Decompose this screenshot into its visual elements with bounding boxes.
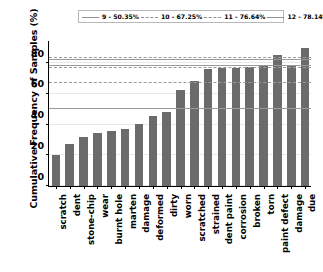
plot-area: 020406080 scratchdentstone-chipwearburnt… <box>48 41 311 187</box>
reference-line-12 <box>49 65 311 66</box>
bar <box>273 55 282 186</box>
x-tick-mark <box>236 186 237 189</box>
bar <box>218 68 227 186</box>
bar <box>232 68 241 186</box>
bar <box>93 133 102 186</box>
x-tick-mark <box>70 186 71 189</box>
bar <box>190 81 199 186</box>
x-tick-label-text: broken <box>253 194 262 228</box>
y-tick-mark <box>46 154 49 155</box>
x-tick-label: dirty <box>170 191 179 214</box>
x-tick-mark <box>194 186 195 189</box>
x-tick-label: strained <box>212 191 221 231</box>
y-tick-label: 20 <box>31 139 44 150</box>
reference-line-11 <box>49 67 311 68</box>
x-tick-label: wear <box>101 191 110 215</box>
x-tick-label-text: torn <box>267 194 276 214</box>
reference-line-13 <box>49 59 311 60</box>
x-tick-label: paint defect <box>281 191 290 250</box>
legend-line-swatch <box>267 14 284 19</box>
x-tick-label: marten <box>129 191 138 226</box>
y-tick-mark <box>46 62 49 63</box>
x-tick-mark <box>167 186 168 189</box>
bar <box>162 112 171 186</box>
legend-item-12: 12 - 78.14% <box>267 13 323 20</box>
bar <box>301 48 310 186</box>
x-tick-label: burnt hole <box>115 191 124 242</box>
bar <box>65 144 74 186</box>
x-tick-mark <box>291 186 292 189</box>
bar <box>287 65 296 186</box>
x-tick-label: broken <box>253 191 262 225</box>
bar <box>121 129 130 186</box>
x-tick-mark <box>84 186 85 189</box>
bar <box>204 69 213 186</box>
x-tick-label-text: dent <box>73 194 82 216</box>
bar <box>135 124 144 186</box>
x-tick-label: scratched <box>198 191 207 239</box>
x-tick-mark <box>250 186 251 189</box>
legend-item-label: 10 - 67.25% <box>161 13 202 20</box>
x-tick-label-text: scratch <box>59 194 68 230</box>
x-tick-label-text: stone-chip <box>87 194 96 245</box>
x-tick-mark <box>222 186 223 189</box>
bar <box>149 116 158 186</box>
reference-line-9 <box>49 108 311 109</box>
bar <box>79 137 88 186</box>
y-tick-label: 60 <box>31 78 44 89</box>
x-tick-label-text: dent paint <box>225 194 234 244</box>
y-tick-label: 80 <box>31 47 44 58</box>
reference-line-14 <box>49 57 311 58</box>
x-tick-label: torn <box>267 191 276 211</box>
y-tick-label: 0 <box>37 170 44 181</box>
bar <box>176 90 185 186</box>
x-tick-mark <box>277 186 278 189</box>
x-tick-label: dent paint <box>225 191 234 241</box>
x-tick-label-text: scratched <box>198 194 207 242</box>
reference-line-10 <box>49 82 311 83</box>
x-tick-mark <box>264 186 265 189</box>
chart-figure: Cumulative Frequency of Samples (%) 9 - … <box>0 0 323 272</box>
x-tick-label-text: marten <box>129 194 138 229</box>
x-tick-mark <box>97 186 98 189</box>
x-tick-label-text: wear <box>101 194 110 218</box>
x-tick-label: deformed <box>156 191 165 238</box>
x-tick-label: stone-chip <box>87 191 96 242</box>
bar <box>52 155 61 187</box>
x-tick-mark <box>305 186 306 189</box>
x-tick-label-text: worn <box>184 194 193 218</box>
x-tick-label: dent <box>73 191 82 213</box>
x-tick-mark <box>153 186 154 189</box>
x-tick-label: scratch <box>59 191 68 227</box>
x-tick-mark <box>111 186 112 189</box>
bar <box>107 131 116 186</box>
legend-item-label: 12 - 78.14% <box>287 13 323 20</box>
x-tick-label-text: due <box>308 194 317 212</box>
gridline <box>49 62 311 63</box>
x-tick-label-text: damage <box>295 194 304 233</box>
x-tick-label: damage <box>295 191 304 230</box>
y-tick-mark <box>46 93 49 94</box>
y-tick-mark <box>46 124 49 125</box>
y-tick-label: 40 <box>31 109 44 120</box>
x-tick-label-text: dirty <box>170 194 179 217</box>
bar <box>245 67 254 186</box>
x-tick-label-text: damage <box>142 194 151 233</box>
legend-line-swatch <box>204 14 221 19</box>
x-tick-label: due <box>308 191 317 209</box>
legend-item-11: 11 - 76.64% <box>204 13 265 20</box>
x-tick-label-text: corrosion <box>239 194 248 239</box>
x-tick-mark <box>139 186 140 189</box>
x-tick-label: worn <box>184 191 193 215</box>
legend-item-9: 9 - 50.35% <box>82 13 139 20</box>
x-tick-mark <box>56 186 57 189</box>
x-tick-label: corrosion <box>239 191 248 236</box>
legend-line-swatch <box>82 14 99 19</box>
x-tick-label-text: strained <box>212 194 221 234</box>
x-tick-label-text: deformed <box>156 194 165 241</box>
legend-item-label: 11 - 76.64% <box>224 13 265 20</box>
chart-legend: 9 - 50.35%10 - 67.25%11 - 76.64%12 - 78.… <box>78 10 284 23</box>
legend-line-swatch <box>141 14 158 19</box>
x-tick-label-text: burnt hole <box>115 194 124 245</box>
x-tick-label: damage <box>142 191 151 230</box>
